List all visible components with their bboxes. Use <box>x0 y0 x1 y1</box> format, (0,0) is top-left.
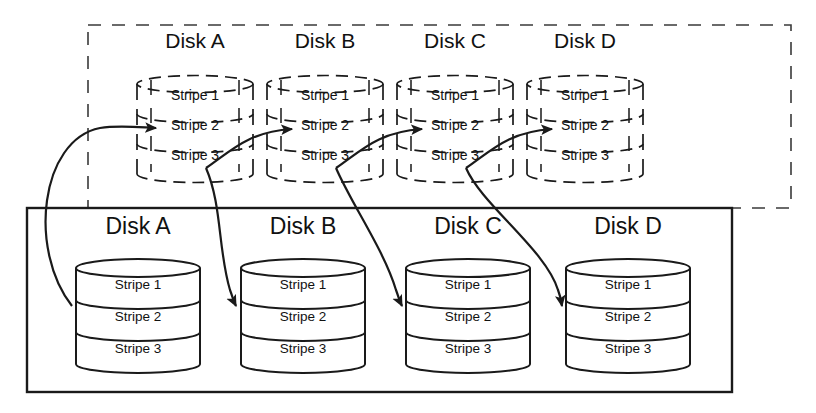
logical-disk-d-label: Disk D <box>525 30 645 51</box>
physical-disk-a-stripe-1: Stripe 1 <box>76 278 200 292</box>
logical-disk-c-stripe-2: Stripe 2 <box>397 118 513 132</box>
physical-disk-a-label: Disk A <box>78 215 198 238</box>
physical-disk-b-stripe-2: Stripe 2 <box>241 310 365 324</box>
physical-disk-b-label: Disk B <box>243 215 363 238</box>
physical-disk-c-stripe-1: Stripe 1 <box>406 278 530 292</box>
logical-disk-d-stripe-1: Stripe 1 <box>527 88 643 102</box>
physical-disk-a-stripe-3: Stripe 3 <box>76 342 200 356</box>
logical-disk-b-stripe-1: Stripe 1 <box>267 88 383 102</box>
logical-disk-a-stripe-3: Stripe 3 <box>137 148 253 162</box>
logical-disk-d-stripe-3: Stripe 3 <box>527 148 643 162</box>
physical-disk-c-stripe-3: Stripe 3 <box>406 342 530 356</box>
logical-disk-b-stripe-3: Stripe 3 <box>267 148 383 162</box>
logical-disk-a-label: Disk A <box>135 30 255 51</box>
physical-disk-a-stripe-2: Stripe 2 <box>76 310 200 324</box>
logical-disk-b-label: Disk B <box>265 30 385 51</box>
raid-striping-diagram: Disk A Disk B Disk C Disk D Stripe 1 Str… <box>0 0 816 413</box>
physical-disk-b-stripe-3: Stripe 3 <box>241 342 365 356</box>
physical-disk-b-stripe-1: Stripe 1 <box>241 278 365 292</box>
logical-disk-a-stripe-1: Stripe 1 <box>137 88 253 102</box>
logical-disk-b-stripe-2: Stripe 2 <box>267 118 383 132</box>
physical-disk-d-stripe-3: Stripe 3 <box>566 342 690 356</box>
physical-disk-c-label: Disk C <box>408 215 528 238</box>
physical-disk-d-stripe-2: Stripe 2 <box>566 310 690 324</box>
logical-disk-c-stripe-1: Stripe 1 <box>397 88 513 102</box>
logical-disk-c-stripe-3: Stripe 3 <box>397 148 513 162</box>
physical-disk-d-stripe-1: Stripe 1 <box>566 278 690 292</box>
physical-disk-c-stripe-2: Stripe 2 <box>406 310 530 324</box>
physical-disk-d-label: Disk D <box>568 215 688 238</box>
logical-disk-d-stripe-2: Stripe 2 <box>527 118 643 132</box>
logical-disk-c-label: Disk C <box>395 30 515 51</box>
logical-disk-a-stripe-2: Stripe 2 <box>137 118 253 132</box>
arrow-logical-a-to-physical-b <box>206 168 236 306</box>
